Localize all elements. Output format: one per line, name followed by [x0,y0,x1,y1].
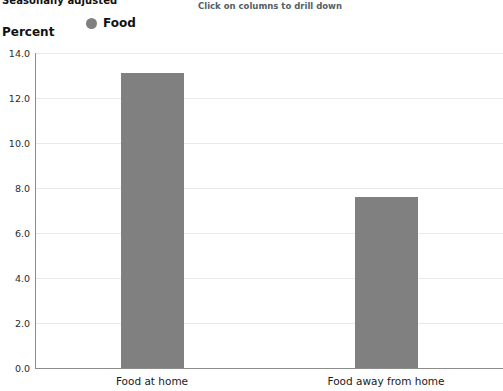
drilldown-hint-text: Click on columns to drill down [198,1,342,11]
y-axis-tick-label: 2.0 [0,318,30,329]
y-axis-tick-label: 12.0 [0,93,30,104]
x-axis-tick-label[interactable]: Food at home [116,375,188,387]
gridline [35,188,503,189]
gridline [35,278,503,279]
y-axis-line [35,53,36,369]
x-axis-tick-label[interactable]: Food away from home [327,375,444,387]
chart-legend[interactable]: Food [86,16,136,30]
y-axis-tick-label: 4.0 [0,273,30,284]
bar-column[interactable] [121,73,184,368]
bar-column[interactable] [355,197,418,368]
y-axis-title: Percent [2,25,54,39]
plot-area: 0.02.04.06.08.010.012.014.0 Food at home… [0,45,503,391]
gridline [35,98,503,99]
y-axis-tick-label: 8.0 [0,183,30,194]
legend-label-food: Food [103,16,136,30]
x-axis-line [35,368,503,369]
y-axis-tick-label: 0.0 [0,363,30,374]
gridline [35,233,503,234]
gridline [35,53,503,54]
y-axis-tick-label: 14.0 [0,48,30,59]
gridline [35,143,503,144]
chart-title: Seasonally adjusted [2,0,117,6]
legend-marker-food-icon [86,18,97,29]
gridline [35,323,503,324]
y-axis-tick-label: 6.0 [0,228,30,239]
y-axis-tick-label: 10.0 [0,138,30,149]
